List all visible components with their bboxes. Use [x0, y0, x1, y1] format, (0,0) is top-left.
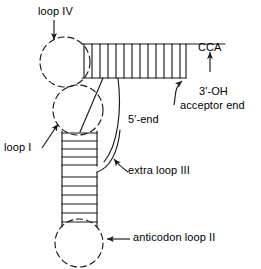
arrow-up-right-icon-loop-i: [42, 124, 58, 148]
label-loop-iv: loop IV: [38, 5, 73, 18]
arrow-up-left-icon-extra-loop: [114, 159, 128, 172]
label-acceptor-end: acceptor end: [180, 99, 245, 112]
extra-loop-iii-outer-curve: [104, 78, 119, 162]
extra-loop-iii-inner-curve: [97, 130, 120, 172]
d-stem-rungs: [62, 133, 97, 165]
anticodon-loop-ii-circle: [55, 219, 103, 267]
anticodon-stem-rungs: [62, 177, 97, 222]
annotation-arrows-group: [42, 20, 210, 239]
acceptor-stem-rungs: [84, 44, 186, 78]
label-cca: CCA: [198, 41, 222, 54]
label-extra-loop-iii: extra loop III: [128, 164, 190, 177]
label-anticodon-loop-ii: anticodon loop II: [133, 231, 215, 244]
loop-i-circle: [53, 85, 103, 135]
trna-cloverleaf-figure: loop IV loop I anticodon loop II extra l…: [0, 0, 261, 269]
label-loop-i: loop I: [4, 141, 32, 154]
label-five-prime-end: 5′-end: [128, 113, 159, 126]
label-three-prime-oh: 3′-OH: [199, 85, 228, 98]
